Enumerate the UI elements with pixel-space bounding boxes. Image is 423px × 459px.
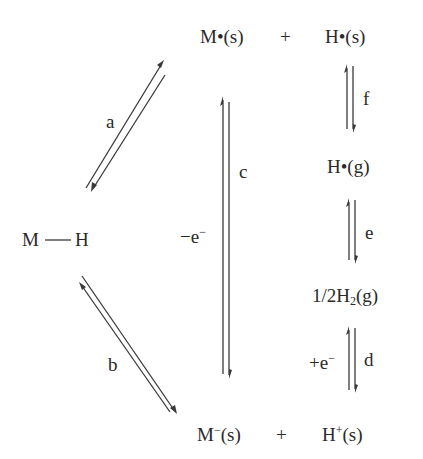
plus-bottom-label: + [276, 425, 287, 444]
mh-metal-label: M [22, 230, 39, 249]
step-e-label: e [365, 223, 373, 242]
m-anion-phase: (s) [221, 424, 241, 445]
plus-top-label: + [280, 27, 291, 46]
h2-prefix-text: 1/2H [312, 285, 350, 306]
arrow-a-icon [86, 60, 165, 192]
h-cation-base: H [322, 424, 336, 445]
reaction-scheme-diagram: M•(s) + H•(s) f H•(g) e 1/2H2(g) +e− d M… [0, 0, 423, 459]
mh-hydrogen-label: H [75, 230, 89, 249]
h-cation-phase: (s) [343, 424, 363, 445]
arrow-c-icon [220, 96, 232, 379]
h-radical-gas-label: H•(g) [327, 157, 370, 176]
minus-electron-label: −e− [180, 227, 206, 246]
step-a-label: a [106, 112, 114, 131]
minus-e-superscript: − [199, 225, 206, 239]
m-anion-superscript: − [214, 423, 221, 437]
plus-electron-label: +e− [309, 353, 335, 372]
arrow-f-icon [344, 64, 356, 133]
arrow-b-icon [79, 276, 177, 414]
minus-e-text: −e [180, 226, 199, 247]
half-h2-gas-label: 1/2H2(g) [312, 286, 378, 305]
step-b-label: b [108, 355, 118, 374]
h2-phase-text: (g) [356, 285, 378, 306]
equilibrium-arrows [0, 0, 423, 459]
h-cation-surface-label: H+(s) [322, 425, 363, 444]
step-d-label: d [364, 350, 374, 369]
step-f-label: f [363, 89, 369, 108]
arrow-e-icon [346, 198, 358, 264]
h-radical-surface-label: H•(s) [325, 27, 365, 46]
m-radical-surface-label: M•(s) [200, 27, 244, 46]
plus-e-superscript: − [328, 351, 335, 365]
step-c-label: c [239, 162, 247, 181]
arrow-d-icon [346, 326, 358, 393]
plus-e-text: +e [309, 352, 328, 373]
h-cation-superscript: + [336, 423, 343, 437]
m-anion-surface-label: M−(s) [197, 425, 241, 444]
m-anion-base: M [197, 424, 214, 445]
